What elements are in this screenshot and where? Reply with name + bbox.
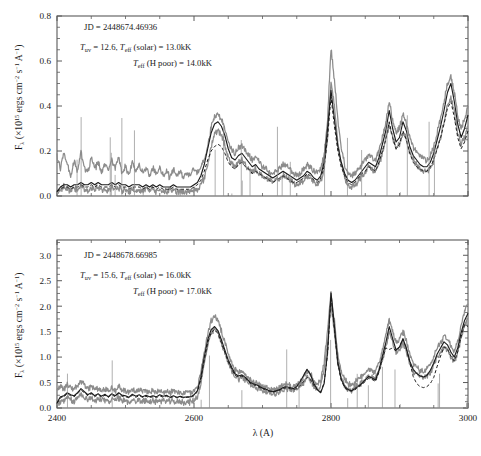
svg-text:λ (A): λ (A): [253, 427, 273, 439]
y-tick-label: 3.0: [40, 251, 52, 261]
svg-text:Teff (H poor) = 17.0kK: Teff (H poor) = 17.0kK: [133, 286, 213, 297]
y-tick-label: 0.0: [40, 191, 52, 201]
y-tick-label: 0.6: [40, 56, 52, 66]
teff-hpoor-value-bottom: (H poor) = 17.0kK: [147, 286, 213, 296]
y-tick-label: 0.4: [40, 101, 52, 111]
svg-text:Fλ (×1015 ergs cm−2 s−1 A−1): Fλ (×1015 ergs cm−2 s−1 A−1): [13, 45, 25, 150]
teff-solar-bottom: (solar) = 16.0kK: [134, 270, 192, 280]
panel-top-tick-labels: 0.00.20.40.60.8: [40, 11, 52, 201]
series-observed-upper-envelope: [57, 292, 468, 396]
x-tick-label: 3000: [459, 413, 478, 423]
panel-bottom-curves: [57, 292, 468, 408]
series-observed-upper-envelope: [57, 50, 468, 180]
jd-label-bottom: JD: [84, 250, 94, 260]
series-observed-lower-envelope: [57, 306, 468, 406]
x-tick-label: 2800: [322, 413, 341, 423]
x-tick-label: 2400: [48, 413, 67, 423]
y-tick-label: 2.0: [40, 302, 52, 312]
x-tick-label: 2600: [185, 413, 204, 423]
y-tick-label: 1.5: [40, 327, 52, 337]
jd-value-bottom: 2448678.66985: [103, 250, 157, 260]
x-axis-title: λ (A): [253, 427, 273, 439]
panel-bottom: 24002600280030000.00.51.01.52.02.53.0 JD…: [0, 228, 481, 456]
tuv-value-top: = 12.6,: [93, 42, 117, 52]
panel-top-curves: [57, 50, 468, 196]
y-tick-label: 0.8: [40, 11, 52, 21]
svg-text:Tuv = 12.6, Teff (solar) = 13.: Tuv = 12.6, Teff (solar) = 13.0kK: [80, 42, 192, 53]
svg-text:JD = 2448678.66985: JD = 2448678.66985: [84, 250, 157, 260]
y-axis-title-top: Fλ (×1015 ergs cm−2 s−1 A−1): [13, 45, 25, 150]
y-tick-label: 0.2: [40, 146, 52, 156]
y-tick-label: 1.0: [40, 352, 52, 362]
tuv-value-bottom: = 15.6,: [93, 270, 117, 280]
teff-solar-top: (solar) = 13.0kK: [134, 42, 192, 52]
panel-top-svg: 0.00.20.40.60.8 JD = 2448674.46936 Tuv =…: [0, 0, 481, 228]
panel-top-annotation: JD = 2448674.46936 Tuv = 12.6, Teff (sol…: [80, 22, 213, 69]
panel-bottom-svg: 24002600280030000.00.51.01.52.02.53.0 JD…: [0, 228, 481, 456]
panel-bottom-axes: [57, 240, 468, 408]
y-tick-label: 0.5: [40, 378, 52, 388]
jd-label-top: JD: [84, 22, 94, 32]
svg-text:Tuv = 15.6, Teff (solar) = 16.: Tuv = 15.6, Teff (solar) = 16.0kK: [80, 270, 192, 281]
svg-text:Fλ (×1015 ergs cm−2 s−1 A−1): Fλ (×1015 ergs cm−2 s−1 A−1): [13, 273, 25, 378]
jd-value-top: 2448674.46936: [103, 22, 158, 32]
y-tick-label: 0.0: [40, 403, 52, 413]
panel-bottom-annotation: JD = 2448678.66985 Tuv = 15.6, Teff (sol…: [80, 250, 213, 297]
panel-top: 0.00.20.40.60.8 JD = 2448674.46936 Tuv =…: [0, 0, 481, 228]
svg-text:JD = 2448674.46936: JD = 2448674.46936: [84, 22, 158, 32]
y-axis-title-bottom: Fλ (×1015 ergs cm−2 s−1 A−1): [13, 273, 25, 378]
teff-hpoor-value-top: (H poor) = 14.0kK: [147, 58, 213, 68]
y-tick-label: 2.5: [40, 276, 52, 286]
svg-text:Teff (H poor) = 14.0kK: Teff (H poor) = 14.0kK: [133, 58, 213, 69]
spectrum-figure: 0.00.20.40.60.8 JD = 2448674.46936 Tuv =…: [0, 0, 481, 456]
